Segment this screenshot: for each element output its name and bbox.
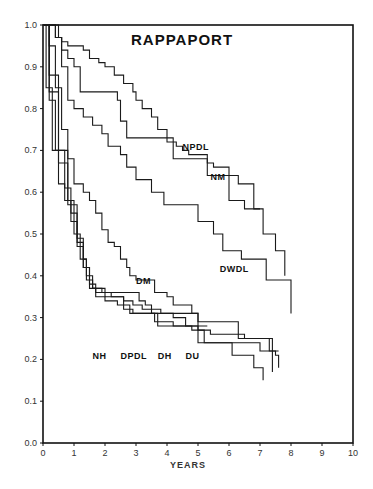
y-tick-label: 0.4 xyxy=(24,271,37,281)
x-tick-label: 5 xyxy=(195,448,200,458)
y-tick-label: 1.0 xyxy=(24,20,37,30)
label-npdl: NPDL xyxy=(183,142,210,152)
plot-frame xyxy=(43,25,353,443)
y-tick-label: 0.5 xyxy=(24,229,37,239)
y-tick-label: 0.3 xyxy=(24,313,37,323)
chart-title: RAPPAPORT xyxy=(131,31,233,48)
curve-dh xyxy=(43,25,279,351)
x-tick-label: 1 xyxy=(71,448,76,458)
y-tick-label: 0.8 xyxy=(24,104,37,114)
x-tick-label: 6 xyxy=(226,448,231,458)
x-tick-label: 4 xyxy=(164,448,169,458)
x-axis-label: YEARS xyxy=(170,460,206,470)
curve-labels: NPDLNMDWDLDMNHDPDLDHDU xyxy=(93,142,249,361)
plot-border xyxy=(43,25,353,443)
label-nm: NM xyxy=(210,172,225,182)
survival-curves xyxy=(43,25,291,380)
y-tick-label: 0.1 xyxy=(24,396,37,406)
curve-nh xyxy=(43,25,263,380)
x-tick-label: 3 xyxy=(133,448,138,458)
label-nh: NH xyxy=(93,351,107,361)
y-tick-label: 0.7 xyxy=(24,145,37,155)
x-tick-label: 0 xyxy=(40,448,45,458)
survival-chart: 0123456789100.00.10.20.30.40.50.60.70.80… xyxy=(0,0,373,489)
label-du: DU xyxy=(186,351,200,361)
curve-dpdl xyxy=(43,25,279,368)
x-tick-label: 2 xyxy=(102,448,107,458)
y-tick-label: 0.6 xyxy=(24,187,37,197)
y-tick-label: 0.2 xyxy=(24,354,37,364)
label-dm: DM xyxy=(136,276,151,286)
x-tick-label: 8 xyxy=(288,448,293,458)
label-dh: DH xyxy=(158,351,172,361)
x-tick-label: 10 xyxy=(348,448,358,458)
axis-ticks: 0123456789100.00.10.20.30.40.50.60.70.80… xyxy=(24,20,358,458)
x-tick-label: 7 xyxy=(257,448,262,458)
x-tick-label: 9 xyxy=(319,448,324,458)
y-tick-label: 0.9 xyxy=(24,62,37,72)
label-dwdl: DWDL xyxy=(220,264,249,274)
label-dpdl: DPDL xyxy=(121,351,148,361)
y-tick-label: 0.0 xyxy=(24,438,37,448)
